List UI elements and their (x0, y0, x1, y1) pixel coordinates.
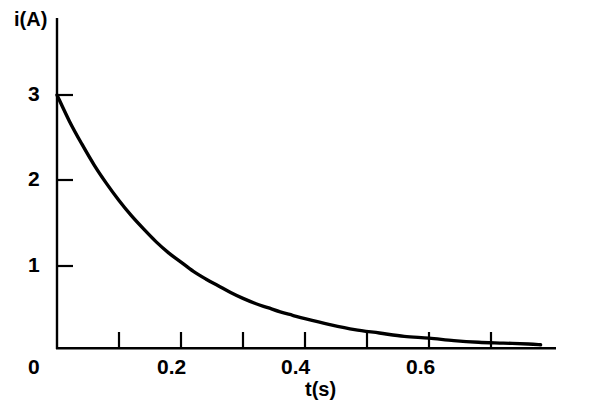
y-tick-label-2: 2 (28, 167, 40, 191)
exponential-decay-chart: i(A) t(s) 3 2 1 0 0.2 0.4 0.6 (0, 0, 595, 411)
x-tick-label-0.6: 0.6 (406, 355, 435, 379)
y-tick-label-3: 3 (28, 82, 40, 106)
decay-curve (57, 95, 541, 345)
y-axis-title: i(A) (14, 8, 47, 31)
x-tick-label-0.4: 0.4 (281, 355, 310, 379)
origin-tick-label: 0 (28, 355, 40, 379)
chart-plot-area (0, 0, 595, 411)
x-tick-label-0.2: 0.2 (157, 355, 186, 379)
x-axis-title: t(s) (305, 378, 336, 401)
y-tick-label-1: 1 (28, 253, 40, 277)
